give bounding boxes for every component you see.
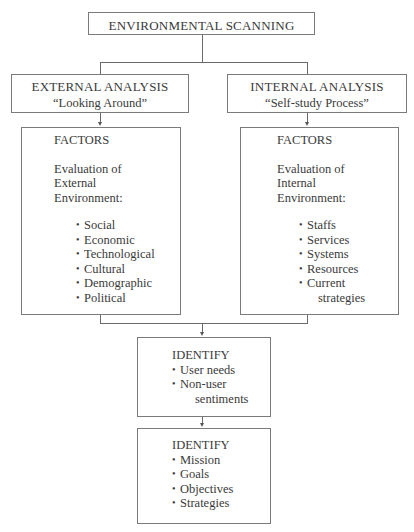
arrow-down-icon	[98, 122, 102, 126]
internal-factors-box: FACTORS Evaluation of Internal Environme…	[240, 127, 399, 315]
identify-needs-box: IDENTIFY User needs Non-user sentiments	[137, 337, 271, 417]
internal-eval-line3: Environment:	[277, 191, 398, 206]
internal-analysis-subtitle: “Self-study Process”	[228, 96, 406, 111]
list-item: Economic	[76, 233, 180, 248]
internal-factors-heading: FACTORS	[277, 133, 398, 148]
list-item: Current	[299, 276, 398, 291]
list-item: Cultural	[76, 262, 180, 277]
external-eval-line1: Evaluation of	[54, 162, 180, 177]
connector-left-merge-down	[100, 315, 101, 323]
list-item: Goals	[172, 467, 270, 482]
list-item: Objectives	[172, 482, 270, 497]
identify-needs-list: User needs Non-user	[172, 363, 270, 392]
identify-mission-heading: IDENTIFY	[172, 438, 270, 453]
list-item: Systems	[299, 247, 398, 262]
external-analysis-subtitle: “Looking Around”	[12, 96, 188, 111]
identify-needs-heading: IDENTIFY	[172, 348, 270, 363]
connector-right-merge-down	[307, 315, 308, 323]
external-eval-line3: Environment:	[54, 191, 180, 206]
connector-root-down	[202, 35, 203, 62]
list-item: Services	[299, 233, 398, 248]
external-factors-box: FACTORS Evaluation of External Environme…	[21, 127, 181, 315]
internal-factors-list: Staffs Services Systems Resources Curren…	[299, 218, 398, 291]
arrow-down-icon	[200, 423, 204, 427]
connector-left-down	[100, 62, 101, 74]
list-item: Mission	[172, 453, 270, 468]
list-item: Political	[76, 291, 180, 306]
list-item: Staffs	[299, 218, 398, 233]
list-item: Social	[76, 218, 180, 233]
environmental-scanning-box: ENVIRONMENTAL SCANNING	[88, 12, 315, 35]
connector-merge-horizontal	[100, 323, 308, 324]
list-item: Non-user	[172, 377, 270, 392]
internal-eval-line1: Evaluation of	[277, 162, 398, 177]
arrow-down-icon	[305, 122, 309, 126]
arrow-down-icon	[200, 332, 204, 336]
external-analysis-box: EXTERNAL ANALYSIS “Looking Around”	[11, 74, 189, 113]
external-eval-line2: External	[54, 176, 180, 191]
identify-mission-list: Mission Goals Objectives Strategies	[172, 453, 270, 511]
internal-eval-line2: Internal	[277, 176, 398, 191]
internal-analysis-title: INTERNAL ANALYSIS	[228, 79, 406, 95]
list-item: Resources	[299, 262, 398, 277]
connector-right-down	[307, 62, 308, 74]
identify-needs-continuation: sentiments	[195, 392, 270, 407]
connector-horizontal-top	[100, 62, 307, 63]
identify-mission-box: IDENTIFY Mission Goals Objectives Strate…	[137, 428, 271, 524]
list-item: Strategies	[172, 496, 270, 511]
internal-item-continuation: strategies	[318, 291, 398, 306]
root-label: ENVIRONMENTAL SCANNING	[109, 18, 295, 33]
external-factors-list: Social Economic Technological Cultural D…	[76, 218, 180, 305]
list-item: Technological	[76, 247, 180, 262]
external-factors-heading: FACTORS	[54, 133, 180, 148]
external-analysis-title: EXTERNAL ANALYSIS	[12, 79, 188, 95]
internal-analysis-box: INTERNAL ANALYSIS “Self-study Process”	[227, 74, 407, 113]
list-item: Demographic	[76, 276, 180, 291]
list-item: User needs	[172, 363, 270, 378]
